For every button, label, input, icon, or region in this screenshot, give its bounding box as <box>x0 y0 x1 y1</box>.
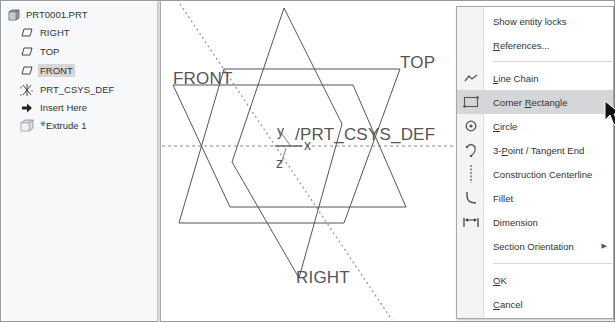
corner-rectangle-icon <box>457 90 484 114</box>
dimension-icon <box>457 210 484 234</box>
menu-item-ok[interactable]: OK <box>457 268 613 292</box>
menu-item-line-chain[interactable]: Line Chain <box>457 66 613 90</box>
tree-item-extrude[interactable]: ※Extrude 1 <box>20 117 89 134</box>
menu-item-construction-centerline[interactable]: Construction Centerline <box>457 162 613 186</box>
coordinate-system-icon: yzx <box>20 83 34 97</box>
datum-plane-icon <box>20 64 34 78</box>
menu-item-show-entity-locks[interactable]: Show entity locks <box>457 9 613 33</box>
tree-item-label: ※Extrude 1 <box>38 119 89 132</box>
menu-item-section-orientation[interactable]: Section Orientation ▶ <box>457 234 613 258</box>
menu-item-cancel[interactable]: Cancel <box>457 292 613 316</box>
graphics-window[interactable]: FRONT TOP RIGHT /PRT_CSYS_DEF y x z <box>162 2 456 321</box>
extrude-icon <box>20 119 34 133</box>
menu-item-circle[interactable]: Circle <box>457 114 613 138</box>
mouse-cursor-icon <box>604 100 615 132</box>
diagonal-reference-line <box>180 4 392 320</box>
menu-item-dimension[interactable]: Dimension <box>457 210 613 234</box>
tree-item-label: FRONT <box>38 64 75 77</box>
right-plane-label: RIGHT <box>296 268 350 288</box>
context-menu: Show entity locks References... Line Cha… <box>456 6 614 319</box>
fillet-icon <box>457 186 484 210</box>
svg-text:y: y <box>20 84 22 89</box>
tree-item-right[interactable]: RIGHT <box>20 24 72 41</box>
svg-text:z: z <box>20 92 22 97</box>
tree-item-csys[interactable]: yzx PRT_CSYS_DEF <box>20 81 116 98</box>
menu-item-corner-rectangle[interactable]: Corner Rectangle <box>457 90 613 114</box>
tree-item-label: PRT_CSYS_DEF <box>38 83 116 96</box>
tree-item-part[interactable]: PRT0001.PRT <box>6 6 89 23</box>
circle-icon <box>457 114 484 138</box>
tree-item-front[interactable]: FRONT <box>20 62 75 79</box>
app-window: PRT0001.PRT RIGHT TOP FRONT yzx PRT_CSYS… <box>0 0 615 322</box>
top-plane-label: TOP <box>400 53 435 73</box>
tree-item-label: Insert Here <box>38 101 89 114</box>
menu-separator <box>493 263 612 264</box>
x-axis-label: x <box>304 137 311 153</box>
arc-icon <box>457 138 484 162</box>
tree-item-label: RIGHT <box>38 26 72 39</box>
menu-item-references[interactable]: References... <box>457 33 613 57</box>
centerline-icon <box>457 162 484 186</box>
front-plane-label: FRONT <box>173 69 233 89</box>
panel-splitter[interactable] <box>158 1 161 322</box>
z-axis-label: z <box>276 155 283 171</box>
part-icon <box>6 8 20 22</box>
y-axis-label: y <box>277 123 284 139</box>
svg-text:x: x <box>31 88 33 93</box>
tree-item-insert-here[interactable]: Insert Here <box>20 99 89 116</box>
insert-arrow-icon <box>20 101 34 115</box>
submenu-arrow-icon: ▶ <box>602 242 607 250</box>
menu-separator <box>493 61 612 62</box>
line-chain-icon <box>457 66 484 90</box>
menu-item-fillet[interactable]: Fillet <box>457 186 613 210</box>
model-tree: PRT0001.PRT RIGHT TOP FRONT yzx PRT_CSYS… <box>2 2 158 321</box>
datum-plane-icon <box>20 45 34 59</box>
tree-item-top[interactable]: TOP <box>20 43 61 60</box>
tree-item-label: TOP <box>38 45 61 58</box>
csys-label: /PRT_CSYS_DEF <box>295 125 435 145</box>
menu-item-3-point-arc[interactable]: 3-Point / Tangent End <box>457 138 613 162</box>
datum-plane-icon <box>20 26 34 40</box>
tree-item-label: PRT0001.PRT <box>24 8 89 21</box>
